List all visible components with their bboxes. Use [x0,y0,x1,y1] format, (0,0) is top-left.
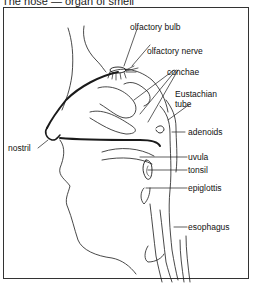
label-tonsil: tonsil [188,166,208,175]
label-olfactory-bulb: olfactory bulb [130,23,181,32]
label-uvula: uvula [188,153,208,162]
label-tube: tube [175,100,192,109]
label-esophagus: esophagus [188,223,230,232]
label-epiglottis: epiglottis [188,184,222,193]
nose-anatomy-drawing [0,0,256,286]
label-conchae: conchae [167,68,199,77]
label-olfactory-nerve: olfactory nerve [147,47,203,56]
label-eustachian: Eustachian [175,90,217,99]
label-adenoids: adenoids [188,128,223,137]
label-nostril: nostril [8,144,31,153]
